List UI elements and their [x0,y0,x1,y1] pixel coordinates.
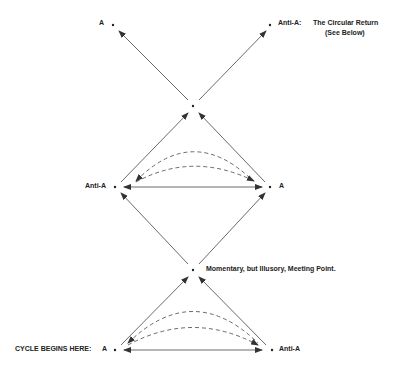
arrow-cross-to-top-a [119,31,188,100]
arrow-mid-anti-a-to-cross [121,113,188,182]
label-circular-return: The Circular Return [313,19,378,26]
dashed-arc-bottom-inner [128,328,258,346]
label-bottom-anti-a: Anti-A [279,345,300,352]
label-bottom-a: A [102,345,107,352]
arrow-cross-to-top-anti-a [199,31,266,100]
cycle-diagram [0,0,396,371]
node-mid-anti-a [114,186,116,188]
arrow-meeting-to-mid-anti-a [121,193,188,264]
label-see-below: (See Below) [325,29,365,36]
label-meeting-point: Momentary, but Illusory, Meeting Point. [206,265,336,272]
label-mid-a: A [279,182,284,189]
dashed-arc-bottom-outer [128,312,258,344]
arrow-bottom-a-to-meeting [121,277,188,345]
label-top-anti-a: Anti-A: [278,19,301,26]
label-top-a: A [99,19,104,26]
arrow-meeting-to-mid-a [199,193,265,264]
node-bottom-anti-a [271,349,273,351]
node-mid-a [269,186,271,188]
label-mid-anti-a: Anti-A [85,182,106,189]
arrow-bottom-anti-a-to-meeting [199,277,266,345]
label-cycle-begins: CYCLE BEGINS HERE: [15,345,91,352]
node-top-a [112,24,114,26]
node-bottom-a [114,349,116,351]
node-meeting-point [192,269,194,271]
node-upper-cross [192,105,194,107]
node-top-anti-a [269,24,271,26]
dashed-arc-mid-outer [136,152,252,181]
arrow-mid-a-to-cross [199,113,265,182]
dashed-arc-mid-inner [136,166,254,182]
